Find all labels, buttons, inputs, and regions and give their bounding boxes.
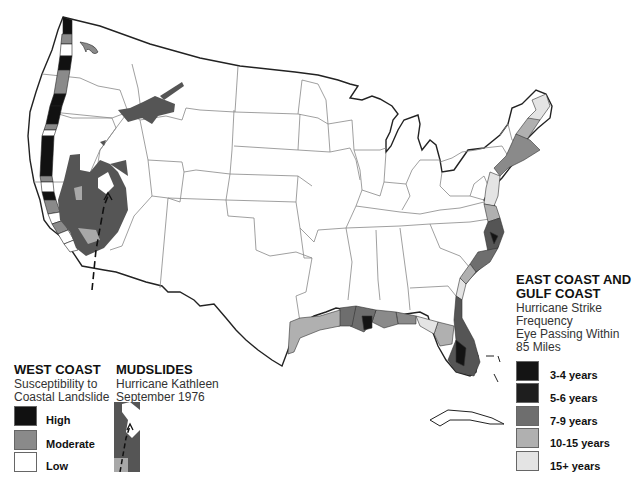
swatch-3-4-years <box>516 361 539 381</box>
east-coast-legend-subtitle-1: Hurricane Strike <box>516 301 602 315</box>
east-coast-legend-title-2: GULF COAST <box>516 286 601 301</box>
mudslides-legend-sample <box>114 402 140 472</box>
swatch-5-6-years-label: 5-6 years <box>550 392 598 404</box>
swatch-15-plus-years <box>516 451 539 471</box>
swatch-low-label: Low <box>46 460 68 472</box>
cuba-outline <box>430 410 504 426</box>
swatch-moderate <box>14 430 37 450</box>
bahamas-islands <box>486 356 500 382</box>
west-coast-legend-title: WEST COAST <box>14 362 101 377</box>
swatch-7-9-years <box>516 406 539 426</box>
swatch-3-4-years-label: 3-4 years <box>550 369 598 381</box>
swatch-high-label: High <box>46 414 70 426</box>
swatch-moderate-label: Moderate <box>46 438 95 450</box>
west-coast-legend-subtitle-2: Coastal Landslide <box>14 390 109 404</box>
east-coast-legend-subtitle-3: Eye Passing Within <box>516 327 619 341</box>
swatch-15-plus-years-label: 15+ years <box>550 460 600 472</box>
swatch-high <box>14 406 37 426</box>
swatch-low <box>14 452 37 472</box>
swatch-5-6-years <box>516 383 539 403</box>
east-coast-legend-subtitle-2: Frequency <box>516 314 573 328</box>
mudslides-legend-title: MUDSLIDES <box>116 362 193 377</box>
east-coast-legend-subtitle-4: 85 Miles <box>516 340 561 354</box>
swatch-10-15-years <box>516 428 539 448</box>
swatch-10-15-years-label: 10-15 years <box>550 437 610 449</box>
east-coast-legend-title-1: EAST COAST AND <box>516 272 631 287</box>
west-coast-legend-subtitle-1: Susceptibility to <box>14 377 97 391</box>
mudslides-legend-subtitle-1: Hurricane Kathleen <box>116 377 219 391</box>
swatch-7-9-years-label: 7-9 years <box>550 415 598 427</box>
